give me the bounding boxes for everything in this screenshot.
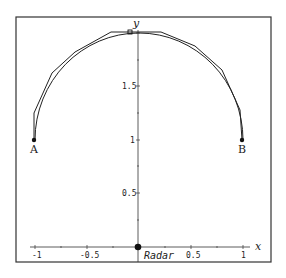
plot-frame <box>16 17 271 262</box>
radar-marker <box>135 244 142 251</box>
chart: -1 -0.5 0.5 1 0.5 1 1.5 x y A B Radar <box>0 0 286 278</box>
x-tick-label: -1 <box>32 251 42 260</box>
point-b-marker <box>240 138 244 142</box>
y-tick-label: 1 <box>130 136 135 145</box>
y-axis-label: y <box>132 17 140 30</box>
y-tick-label: 0.5 <box>122 189 137 198</box>
x-tick-label: 1 <box>241 251 246 260</box>
point-b-label: B <box>238 143 246 156</box>
x-tick-label: 0.5 <box>186 251 201 260</box>
x-tick-label: -0.5 <box>80 251 99 260</box>
x-axis-label: x <box>255 240 262 253</box>
point-a-marker <box>32 138 36 142</box>
y-tick-label: 1.5 <box>122 82 137 91</box>
smooth-arc-curve <box>35 33 243 140</box>
radar-label: Radar <box>144 250 174 261</box>
point-a-label: A <box>29 143 39 156</box>
